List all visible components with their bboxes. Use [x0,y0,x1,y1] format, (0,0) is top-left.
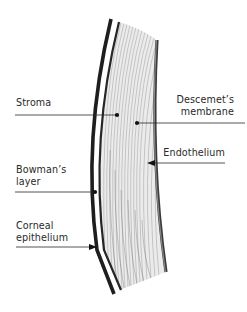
label-descemets-line2: membrane [176,106,234,118]
bowmans-pointer-dot [93,190,97,194]
label-bowmans-line1: Bowman’s [16,164,66,176]
label-stroma-text: Stroma [16,97,51,108]
cornea-diagram: Stroma Descemet’s membrane Endothelium B… [0,0,247,312]
label-endothelium: Endothelium [163,147,225,159]
descemets-pointer-dot [135,121,139,125]
label-endothelium-text: Endothelium [163,147,225,158]
stroma-pointer-dot [115,113,119,117]
cropped-caption-fragment [0,302,247,312]
label-descemets-membrane: Descemet’s membrane [176,94,234,117]
label-epithelium-line2: epithelium [16,232,68,244]
label-bowmans-line2: layer [16,176,66,188]
label-corneal-epithelium: Corneal epithelium [16,220,68,243]
label-descemets-line1: Descemet’s [176,94,234,106]
label-epithelium-line1: Corneal [16,220,68,232]
label-bowmans-layer: Bowman’s layer [16,164,66,187]
label-stroma: Stroma [16,97,51,109]
